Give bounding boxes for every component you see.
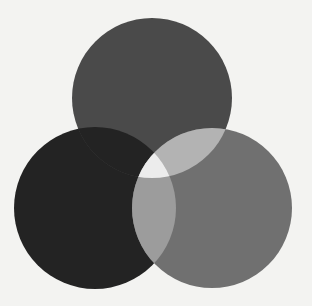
- venn-diagram: [0, 0, 312, 306]
